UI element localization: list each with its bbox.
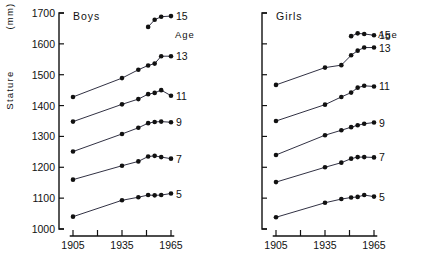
data-point (146, 63, 151, 68)
x-tick-label: 1935 (313, 239, 337, 251)
data-point (355, 123, 360, 128)
series-label-age-13: 13 (176, 50, 188, 62)
y-tick-label: 1300 (32, 130, 56, 142)
data-point (355, 85, 360, 90)
data-point (146, 154, 151, 159)
series-label-age-9: 9 (379, 117, 385, 129)
y-tick-label: 1700 (32, 7, 56, 19)
data-point (146, 121, 151, 126)
y-tick-label: 1400 (32, 100, 56, 112)
age-legend-header: Age (378, 29, 398, 40)
series-label-age-9: 9 (176, 116, 182, 128)
x-tick-label: 1905 (264, 239, 288, 251)
series-label-age-7: 7 (176, 153, 182, 165)
data-point (355, 48, 360, 53)
data-point (152, 120, 157, 125)
panel-girls: 190519351965GirlsAge151311975 (0, 0, 425, 271)
data-point (120, 102, 125, 107)
panel-boys: 1000110012001300140015001600170019051935… (0, 0, 425, 271)
series-line-age-15 (148, 16, 171, 27)
data-point (372, 45, 377, 50)
data-point (159, 88, 164, 93)
data-point (71, 95, 76, 100)
data-point (274, 119, 279, 124)
data-point (362, 193, 367, 198)
series-line-age-9 (276, 123, 374, 155)
data-point (339, 95, 344, 100)
data-point (323, 200, 328, 205)
series-label-age-5: 5 (379, 191, 385, 203)
data-point (169, 156, 174, 161)
data-point (362, 45, 367, 50)
data-point (169, 191, 174, 196)
data-point (159, 14, 164, 19)
age-legend-header: Age (175, 29, 195, 40)
data-point (169, 120, 174, 125)
y-tick-label: 1600 (32, 38, 56, 50)
y-axis-title: Stature (4, 71, 15, 110)
data-point (152, 61, 157, 66)
data-point (136, 125, 141, 130)
data-point (152, 154, 157, 159)
series-line-age-5 (73, 194, 171, 217)
data-point (274, 215, 279, 220)
data-point (136, 97, 141, 102)
data-point (339, 197, 344, 202)
series-label-age-7: 7 (379, 151, 385, 163)
series-label-age-11: 11 (176, 90, 187, 102)
series-line-age-5 (276, 195, 374, 217)
data-point (71, 149, 76, 154)
series-label-age-15: 15 (379, 29, 391, 41)
data-point (323, 102, 328, 107)
series-label-age-11: 11 (379, 80, 390, 92)
panel-title: Boys (73, 10, 100, 22)
data-point (349, 34, 354, 39)
data-point (71, 119, 76, 124)
data-point (71, 214, 76, 219)
series-label-age-5: 5 (176, 188, 182, 200)
data-point (372, 120, 377, 125)
series-label-age-13: 13 (379, 42, 391, 54)
data-point (152, 91, 157, 96)
data-point (146, 25, 151, 30)
data-point (349, 125, 354, 130)
series-line-age-13 (276, 48, 374, 85)
data-point (120, 163, 125, 168)
data-point (136, 159, 141, 164)
data-point (274, 180, 279, 185)
y-tick-label: 1200 (32, 161, 56, 173)
series-line-age-7 (73, 156, 171, 180)
data-point (169, 14, 174, 19)
data-point (159, 119, 164, 124)
y-axis-unit-label: (mm) (4, 3, 15, 30)
data-point (120, 198, 125, 203)
data-point (355, 195, 360, 200)
data-point (349, 195, 354, 200)
data-point (159, 193, 164, 198)
x-tick-label: 1965 (159, 239, 183, 251)
series-line-age-15 (351, 33, 374, 36)
data-point (349, 90, 354, 95)
data-point (136, 67, 141, 72)
data-point (339, 160, 344, 165)
data-point (136, 195, 141, 200)
data-point (372, 155, 377, 160)
series-label-age-15: 15 (176, 10, 188, 22)
data-point (339, 128, 344, 133)
panel-title: Girls (276, 10, 303, 22)
data-point (120, 132, 125, 137)
data-point (274, 83, 279, 88)
data-point (355, 31, 360, 36)
data-point (372, 33, 377, 38)
data-point (339, 63, 344, 68)
x-tick-label: 1935 (110, 239, 134, 251)
data-point (355, 155, 360, 160)
data-point (349, 156, 354, 161)
data-point (152, 17, 157, 22)
data-point (169, 93, 174, 98)
x-tick-label: 1965 (362, 239, 386, 251)
data-point (362, 32, 367, 37)
data-point (146, 92, 151, 97)
data-point (159, 155, 164, 160)
data-point (323, 165, 328, 170)
